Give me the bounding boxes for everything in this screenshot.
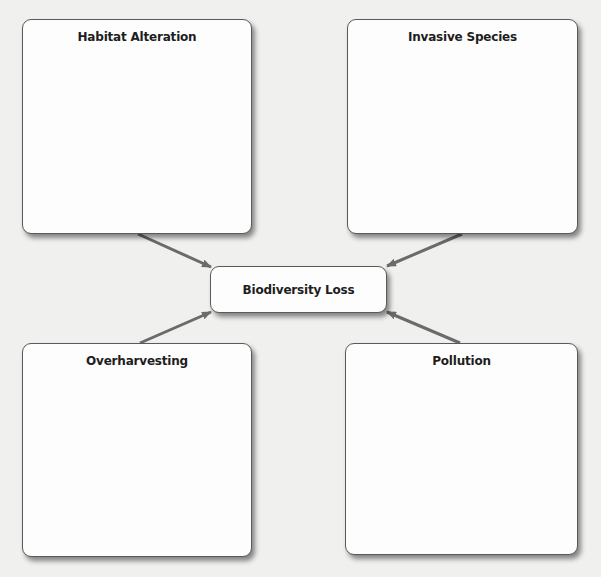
cause-box-habitat-alteration[interactable]: Habitat Alteration <box>22 19 252 234</box>
cause-box-overharvesting[interactable]: Overharvesting <box>22 343 252 557</box>
cause-title: Habitat Alteration <box>23 30 251 44</box>
arrow-overharvesting-to-center <box>140 312 211 343</box>
cause-title: Pollution <box>346 354 577 368</box>
arrow-pollution-to-center <box>387 312 460 343</box>
cause-title: Invasive Species <box>348 30 577 44</box>
cause-box-invasive-species[interactable]: Invasive Species <box>347 19 578 234</box>
arrow-invasive-to-center <box>387 234 462 266</box>
center-box-biodiversity-loss[interactable]: Biodiversity Loss <box>210 266 387 313</box>
arrow-habitat-to-center <box>138 234 211 267</box>
center-title: Biodiversity Loss <box>211 283 386 297</box>
cause-title: Overharvesting <box>23 354 251 368</box>
cause-box-pollution[interactable]: Pollution <box>345 343 578 555</box>
